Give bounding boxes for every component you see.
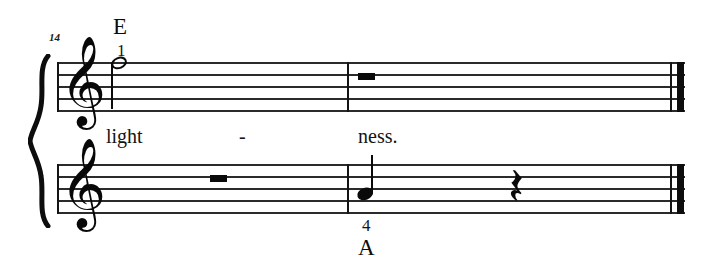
half-rest-upper [358, 73, 375, 80]
final-barline-thick-lower [677, 164, 684, 214]
final-barline-thick-upper [677, 62, 684, 112]
staff-line [57, 212, 685, 214]
chord-label-above: E [113, 14, 127, 40]
staff-line [57, 200, 685, 202]
final-barline-thin-upper [670, 62, 672, 112]
lyric-hyphen: - [239, 125, 246, 148]
measure-number: 14 [49, 31, 60, 43]
note-stem-upper [111, 62, 113, 109]
chord-label-below: A [358, 235, 375, 261]
barline-upper [347, 62, 349, 112]
note-stem-lower [371, 155, 373, 194]
lyric-syllable-2: ness. [358, 125, 397, 148]
treble-clef-lower: 𝄞 [60, 143, 106, 221]
staff-upper [57, 62, 685, 111]
staff-line [57, 62, 685, 64]
fingering-lower: 4 [362, 216, 371, 236]
final-barline-thin-lower [670, 164, 672, 214]
staff-line [57, 86, 685, 88]
staff-line [57, 110, 685, 112]
treble-clef-upper: 𝄞 [60, 41, 106, 119]
staff-line [57, 98, 685, 100]
half-rest-lower [210, 175, 227, 182]
system-brace [28, 54, 54, 232]
quarter-rest-lower: 𝄽 [508, 160, 524, 212]
lyric-syllable-1: light [106, 125, 143, 148]
music-score-sheet: 14 E 1 𝄞 light - ness. 𝄞 [0, 0, 719, 272]
barline-lower [347, 164, 349, 214]
